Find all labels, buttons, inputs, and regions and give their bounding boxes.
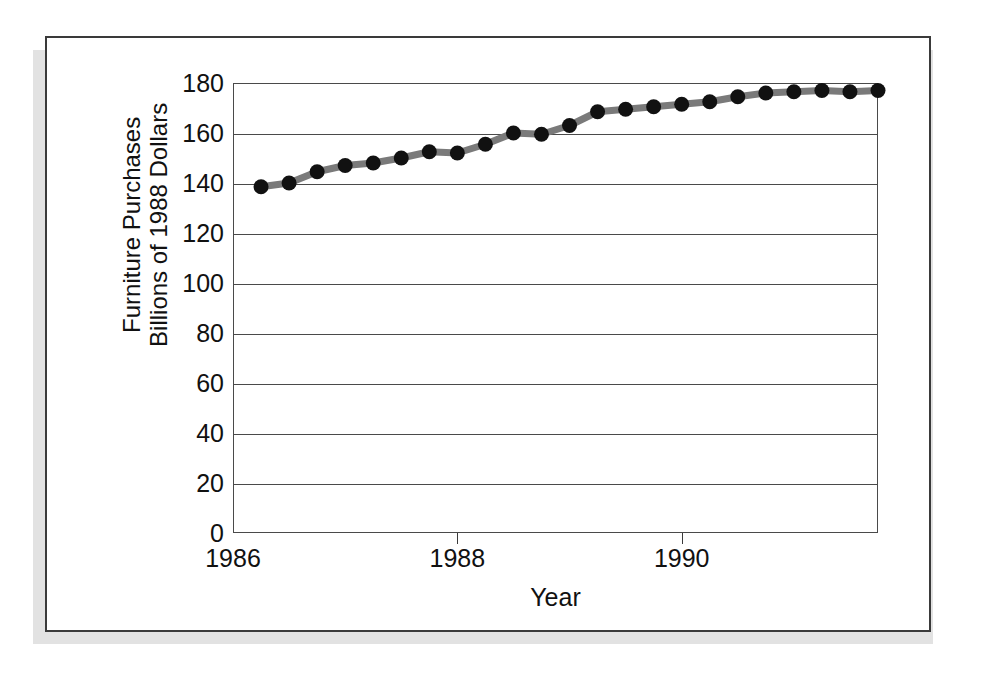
y-axis-tick-label: 160 — [154, 121, 224, 146]
x-axis-tick-mark — [682, 533, 683, 544]
series-polyline — [261, 91, 878, 187]
data-point-marker — [674, 97, 689, 112]
y-axis-tick-label: 120 — [154, 221, 224, 246]
y-axis-tick-label: 40 — [154, 421, 224, 446]
y-axis-title-line-1: Furniture Purchases — [119, 60, 146, 390]
data-point-marker — [534, 127, 549, 142]
data-point-marker — [842, 84, 857, 99]
y-axis-tick-label: 80 — [154, 321, 224, 346]
y-axis-tick-labels: 020406080100120140160180 — [153, 83, 224, 533]
data-point-marker — [618, 102, 633, 117]
y-axis-tick-label: 140 — [154, 171, 224, 196]
x-axis-title: Year — [233, 583, 878, 612]
data-point-marker — [478, 137, 493, 152]
data-series-line — [233, 83, 878, 533]
chart: Furniture Purchases Billions of 1988 Dol… — [47, 38, 933, 634]
data-point-marker — [702, 94, 717, 109]
data-point-marker — [871, 83, 886, 98]
x-axis-tick-labels: 198619881990 — [233, 546, 878, 578]
data-point-marker — [730, 89, 745, 104]
y-axis-tick-label: 60 — [154, 371, 224, 396]
y-axis-tick-label: 0 — [154, 521, 224, 546]
y-axis-tick-label: 20 — [154, 471, 224, 496]
data-point-marker — [590, 104, 605, 119]
data-point-marker — [338, 158, 353, 173]
y-axis-tick-label: 180 — [154, 71, 224, 96]
data-point-marker — [254, 179, 269, 194]
data-point-marker — [562, 118, 577, 133]
data-point-marker — [450, 146, 465, 161]
data-point-marker — [282, 176, 297, 191]
x-axis-tick-mark — [457, 533, 458, 544]
x-axis-tick-marks — [233, 533, 878, 545]
data-point-marker — [758, 86, 773, 101]
x-axis-tick-label: 1986 — [205, 546, 261, 571]
data-point-marker — [814, 83, 829, 98]
data-point-marker — [786, 84, 801, 99]
data-point-marker — [366, 156, 381, 171]
data-point-marker — [646, 99, 661, 114]
data-point-marker — [394, 151, 409, 166]
y-axis-tick-label: 100 — [154, 271, 224, 296]
data-point-marker — [506, 126, 521, 141]
x-axis-tick-label: 1990 — [654, 546, 710, 571]
x-axis-tick-label: 1988 — [430, 546, 486, 571]
data-point-marker — [310, 164, 325, 179]
figure-frame: Furniture Purchases Billions of 1988 Dol… — [45, 36, 931, 632]
data-point-marker — [422, 144, 437, 159]
figure-canvas: Furniture Purchases Billions of 1988 Dol… — [0, 0, 982, 674]
